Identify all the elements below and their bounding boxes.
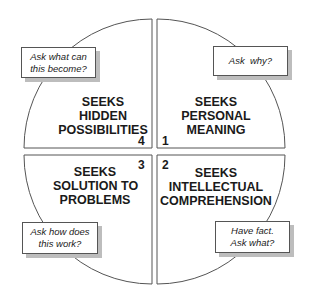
callout-line: Ask how does xyxy=(23,226,97,238)
quadrant-1-heading: SEEKS PERSONAL MEANING xyxy=(180,95,252,137)
quadrant-4-number: 4 xyxy=(138,134,145,148)
quadrant-3-number: 3 xyxy=(138,158,145,172)
heading-line: SEEKS xyxy=(57,95,149,109)
heading-line: SEEKS xyxy=(156,166,276,180)
heading-line: PROBLEMS xyxy=(53,193,137,207)
heading-line: PERSONAL xyxy=(180,109,252,123)
quadrant-2-number: 2 xyxy=(162,158,169,172)
callout-line: Ask what? xyxy=(216,237,289,249)
callout-line: Ask what can xyxy=(22,51,95,63)
quadrant-3-callout: Ask how does this work? xyxy=(22,222,98,254)
heading-line: COMPREHENSION xyxy=(156,194,276,208)
heading-line: HIDDEN xyxy=(57,109,149,123)
quadrant-4-callout: Ask what can this become? xyxy=(21,47,96,78)
quadrant-2-heading: SEEKS INTELLECTUAL COMPREHENSION xyxy=(156,166,276,208)
callout-line: Ask why? xyxy=(214,55,287,67)
callout-line: this become? xyxy=(22,63,95,75)
heading-line: SOLUTION TO xyxy=(53,179,137,193)
heading-line: SEEKS xyxy=(53,165,137,179)
callout-line: Have fact. xyxy=(216,225,289,237)
heading-line: SEEKS xyxy=(180,95,252,109)
quadrant-1-callout: Ask why? xyxy=(213,46,288,76)
quadrant-2-callout: Have fact. Ask what? xyxy=(215,221,290,253)
heading-line: INTELLECTUAL xyxy=(156,180,276,194)
quadrant-1-number: 1 xyxy=(162,134,169,148)
heading-line: POSSIBILITIES xyxy=(57,123,149,137)
callout-line: this work? xyxy=(23,238,97,250)
heading-line: MEANING xyxy=(180,123,252,137)
quadrant-3-heading: SEEKS SOLUTION TO PROBLEMS xyxy=(53,165,137,207)
quadrant-4-heading: SEEKS HIDDEN POSSIBILITIES xyxy=(57,95,149,137)
